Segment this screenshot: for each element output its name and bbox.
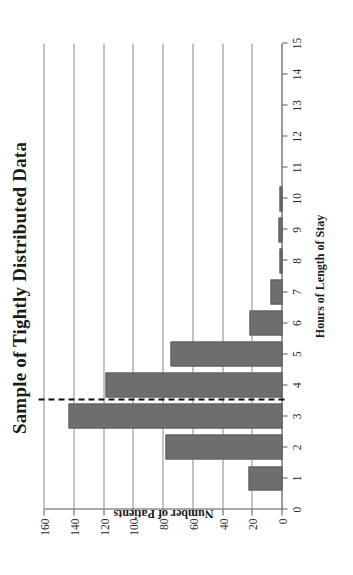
- category-label-13: 13: [290, 99, 302, 111]
- bar-6: [249, 310, 282, 335]
- category-tick-7: [282, 291, 287, 292]
- category-tick-9: [282, 228, 287, 229]
- category-label-1: 1: [290, 475, 302, 481]
- gridline-80: [162, 43, 163, 509]
- category-label-3: 3: [290, 413, 302, 419]
- category-label-10: 10: [290, 193, 302, 205]
- chart-figure: Sample of Tightly Distributed Data 02040…: [0, 0, 353, 575]
- value-tick-160: [43, 509, 44, 515]
- category-label-6: 6: [290, 320, 302, 326]
- value-label-160: 160: [38, 518, 50, 535]
- threshold-line: [38, 398, 284, 400]
- value-tick-20: [251, 509, 252, 515]
- category-tick-2: [282, 446, 287, 447]
- bar-4: [105, 372, 282, 397]
- category-label-0: 0: [290, 506, 302, 512]
- value-axis-title: Number of Patients: [113, 506, 213, 521]
- category-label-11: 11: [290, 162, 302, 173]
- category-axis-title: Hours of Length of Stay: [312, 43, 327, 509]
- value-tick-0: [281, 509, 282, 515]
- category-tick-11: [282, 166, 287, 167]
- bar-7: [270, 279, 282, 304]
- value-tick-40: [222, 509, 223, 515]
- category-tick-13: [282, 104, 287, 105]
- value-label-140: 140: [68, 518, 80, 535]
- bar-1: [248, 466, 282, 491]
- category-tick-12: [282, 135, 287, 136]
- value-label-20: 20: [246, 518, 258, 530]
- category-tick-4: [282, 384, 287, 385]
- category-tick-10: [282, 197, 287, 198]
- value-label-120: 120: [98, 518, 110, 535]
- category-label-7: 7: [290, 289, 302, 295]
- category-tick-5: [282, 353, 287, 354]
- value-label-40: 40: [217, 518, 229, 530]
- category-label-4: 4: [290, 382, 302, 388]
- category-tick-14: [282, 73, 287, 74]
- category-label-15: 15: [290, 37, 302, 49]
- category-tick-8: [282, 259, 287, 260]
- chart-title: Sample of Tightly Distributed Data: [8, 0, 30, 575]
- bar-3: [68, 403, 282, 428]
- category-tick-6: [282, 322, 287, 323]
- bar-2: [165, 434, 283, 459]
- bar-10: [279, 186, 282, 211]
- bar-9: [278, 217, 282, 242]
- value-label-0: 0: [276, 518, 288, 524]
- value-tick-120: [103, 509, 104, 515]
- category-label-8: 8: [290, 258, 302, 264]
- gridline-140: [73, 43, 74, 509]
- category-label-14: 14: [290, 68, 302, 80]
- gridline-160: [43, 43, 44, 509]
- category-tick-0: [282, 508, 287, 509]
- category-tick-3: [282, 415, 287, 416]
- plot-area: 020406080100120140160 012345678910111213…: [44, 43, 282, 509]
- bar-5: [170, 341, 282, 366]
- category-label-5: 5: [290, 351, 302, 357]
- gridline-120: [103, 43, 104, 509]
- value-tick-140: [73, 509, 74, 515]
- category-label-12: 12: [290, 130, 302, 142]
- gridline-100: [132, 43, 133, 509]
- category-label-9: 9: [290, 227, 302, 233]
- category-tick-1: [282, 477, 287, 478]
- category-label-2: 2: [290, 444, 302, 450]
- category-tick-15: [282, 42, 287, 43]
- bar-8: [279, 248, 282, 273]
